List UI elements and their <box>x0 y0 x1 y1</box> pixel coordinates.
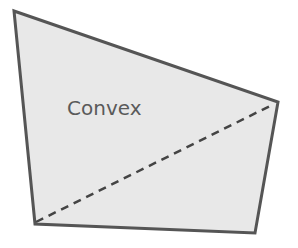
shape-label: Convex <box>67 96 142 120</box>
convex-quadrilateral-figure: Convex <box>0 0 298 248</box>
diagram-canvas: Convex <box>0 0 298 248</box>
